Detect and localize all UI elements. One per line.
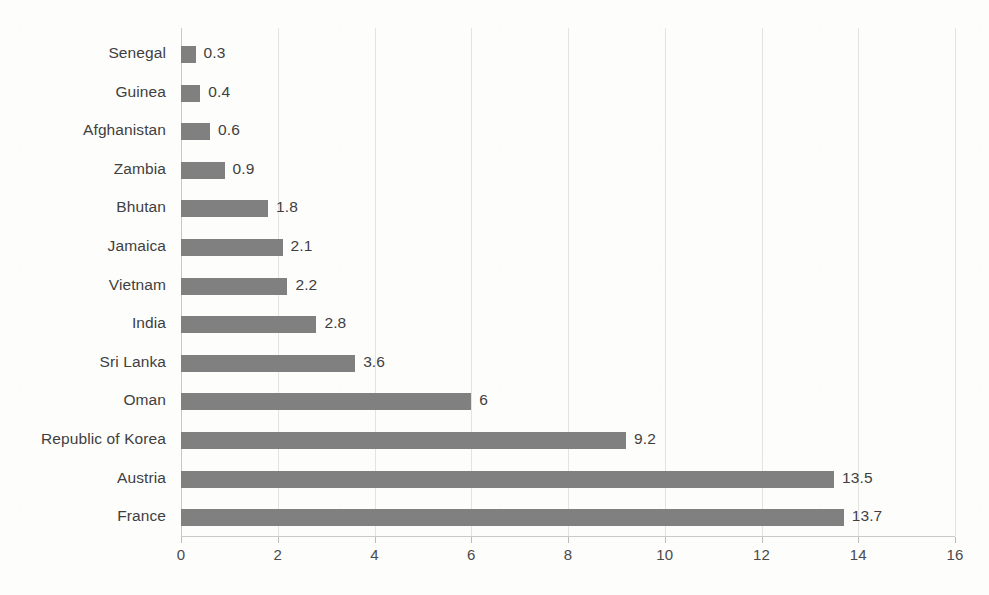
value-label: 0.4 <box>208 83 230 101</box>
value-label: 13.7 <box>852 507 883 525</box>
category-label: France <box>0 507 166 525</box>
bar-row <box>181 432 626 449</box>
bar <box>181 278 287 295</box>
value-label: 2.1 <box>291 237 313 255</box>
value-label: 0.6 <box>218 121 240 139</box>
gridline-16 <box>955 28 956 536</box>
tick-10 <box>665 537 666 543</box>
bar-row <box>181 239 283 256</box>
x-tick-label: 4 <box>370 546 379 563</box>
x-tick-label: 16 <box>946 546 963 563</box>
bar-row <box>181 85 200 102</box>
gridline-8 <box>568 28 569 536</box>
value-label: 0.9 <box>233 160 255 178</box>
x-tick-label: 14 <box>850 546 867 563</box>
bar <box>181 355 355 372</box>
bar-row <box>181 162 225 179</box>
bar-row <box>181 509 844 526</box>
x-tick-label: 6 <box>467 546 476 563</box>
value-label: 6 <box>479 391 488 409</box>
category-label: Zambia <box>0 160 166 178</box>
x-tick-label: 8 <box>564 546 573 563</box>
gridline-4 <box>375 28 376 536</box>
bar <box>181 200 268 217</box>
tick-14 <box>858 537 859 543</box>
category-label: India <box>0 314 166 332</box>
category-label: Guinea <box>0 83 166 101</box>
bar <box>181 123 210 140</box>
x-tick-label: 2 <box>273 546 282 563</box>
bar <box>181 393 471 410</box>
value-label: 13.5 <box>842 469 873 487</box>
category-label: Bhutan <box>0 198 166 216</box>
bar <box>181 316 316 333</box>
value-label: 2.8 <box>324 314 346 332</box>
bar-chart: 0246810121416 SenegalGuineaAfghanistanZa… <box>0 0 989 595</box>
bar-row <box>181 123 210 140</box>
bar-row <box>181 355 355 372</box>
gridline-12 <box>762 28 763 536</box>
value-label: 0.3 <box>204 44 226 62</box>
bar-row <box>181 278 287 295</box>
gridline-10 <box>665 28 666 536</box>
value-label: 3.6 <box>363 353 385 371</box>
bar-row <box>181 316 316 333</box>
bar <box>181 239 283 256</box>
category-label: Austria <box>0 469 166 487</box>
category-label: Oman <box>0 391 166 409</box>
bar-row <box>181 46 196 63</box>
tick-16 <box>955 537 956 543</box>
x-tick-label: 10 <box>656 546 673 563</box>
bar <box>181 85 200 102</box>
tick-2 <box>278 537 279 543</box>
bar <box>181 46 196 63</box>
tick-8 <box>568 537 569 543</box>
bar <box>181 471 834 488</box>
tick-0 <box>181 537 182 543</box>
bar <box>181 432 626 449</box>
category-label: Vietnam <box>0 276 166 294</box>
gridline-14 <box>858 28 859 536</box>
bar-row <box>181 393 471 410</box>
tick-6 <box>471 537 472 543</box>
category-label: Senegal <box>0 44 166 62</box>
gridline-6 <box>471 28 472 536</box>
x-tick-label: 0 <box>177 546 186 563</box>
category-label: Republic of Korea <box>0 430 166 448</box>
category-label: Afghanistan <box>0 121 166 139</box>
tick-4 <box>375 537 376 543</box>
bar <box>181 509 844 526</box>
category-label: Sri Lanka <box>0 353 166 371</box>
tick-12 <box>762 537 763 543</box>
value-label: 1.8 <box>276 198 298 216</box>
value-label: 2.2 <box>295 276 317 294</box>
bar <box>181 162 225 179</box>
bar-row <box>181 471 834 488</box>
x-tick-label: 12 <box>753 546 770 563</box>
value-label: 9.2 <box>634 430 656 448</box>
category-label: Jamaica <box>0 237 166 255</box>
bar-row <box>181 200 268 217</box>
